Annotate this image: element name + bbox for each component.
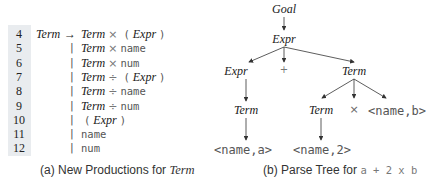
node-name-a: <name,a>	[214, 143, 272, 157]
caption-productions-term: Term	[169, 163, 194, 177]
caption-tree-text: (b) Parse Tree for	[263, 163, 360, 177]
node-term-inner: Term	[309, 103, 333, 118]
node-expr-root: Expr	[272, 32, 295, 47]
node-times: ×	[349, 103, 358, 116]
caption-tree-expr: a + 2 x b	[360, 164, 417, 176]
node-expr-left: Expr	[224, 64, 247, 79]
node-name-b: <name,b>	[368, 104, 426, 118]
node-plus: +	[280, 64, 288, 75]
node-term-right: Term	[342, 64, 366, 79]
caption-parse-tree: (b) Parse Tree for a + 2 x b	[263, 163, 417, 177]
node-goal: Goal	[272, 2, 296, 17]
caption-productions-text: (a) New Productions for	[40, 163, 169, 177]
node-name-2: <name,2>	[293, 143, 351, 157]
node-term-left: Term	[234, 103, 258, 118]
caption-productions: (a) New Productions for Term	[40, 163, 195, 178]
